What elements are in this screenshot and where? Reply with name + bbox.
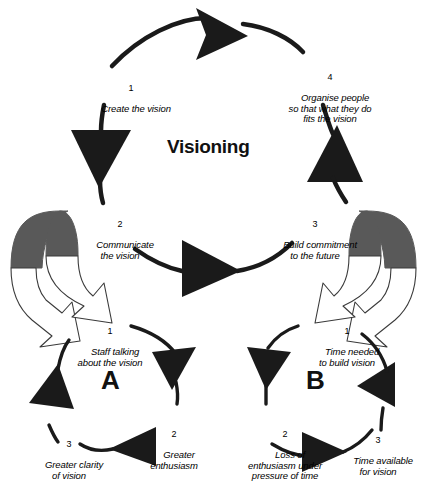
main-step-1-text: Create the vision — [101, 103, 171, 114]
cycle-a-step-1-number: 1 — [52, 326, 168, 337]
cycle-b-step-2-label: 2 Loss of enthusiasm under pressure of t… — [224, 408, 346, 492]
cycle-b-step-1-label: 1 Time needed to build vision — [289, 305, 405, 379]
cycle-a-step-2-label: 2 Greater enthusiasm — [126, 408, 222, 482]
main-step-4-text: Organise people so that what they do fit… — [288, 92, 371, 124]
cycle-b-step-1-number: 1 — [289, 326, 405, 337]
cycle-a-step-3-number: 3 — [11, 439, 127, 450]
cycle-b-step-3-text: Time available for vision — [353, 455, 413, 477]
cycle-a-step-2-text: Greater enthusiasm — [150, 449, 198, 471]
main-step-2-number: 2 — [55, 219, 185, 230]
cycle-a-step-2-number: 2 — [126, 429, 222, 440]
cycle-b-step-1-text: Time needed to build vision — [319, 346, 379, 368]
cycle-a-step-1-label: 1 Staff talking about the vision — [52, 305, 168, 379]
cycle-b-arrowhead-1-to-2 — [247, 347, 291, 390]
main-step-1-number: 1 — [61, 83, 201, 94]
cycle-a-step-3-text: Greater clarity of vision — [45, 459, 103, 481]
cycle-b-step-3-number: 3 — [330, 435, 426, 446]
main-step-1-label: 1 Create the vision — [61, 62, 201, 125]
main-step-2-text: Communicate the vision — [96, 239, 154, 261]
main-step-4-number: 4 — [265, 72, 395, 83]
cycle-a-curve-2-tail — [176, 382, 178, 404]
main-step-2-label: 2 Communicate the vision — [55, 198, 185, 272]
cycle-b-step-3-label: 3 Time available for vision — [330, 414, 426, 488]
main-cycle-arrowhead-bottom — [182, 240, 241, 297]
main-step-3-label: 3 Build commitment to the future — [245, 198, 385, 272]
main-cycle-curve-1-to-4-left — [112, 18, 207, 66]
cycle-a-step-1-text: Staff talking about the vision — [78, 346, 143, 368]
main-step-4-label: 4 Organise people so that what they do f… — [265, 51, 395, 135]
cycle-b-step-2-number: 2 — [224, 429, 346, 440]
cycle-a-step-3-label: 3 Greater clarity of vision — [11, 418, 127, 492]
visioning-diagram: Visioning 1 Create the vision 2 Communic… — [0, 0, 427, 493]
main-step-3-text: Build commitment to the future — [283, 239, 357, 261]
main-cycle-arrowhead-top — [196, 8, 248, 60]
page-title: Visioning — [167, 136, 249, 158]
main-cycle-curve-top-right — [243, 24, 303, 52]
cycle-b-step-2-text: Loss of enthusiasm under pressure of tim… — [248, 449, 322, 481]
main-step-3-number: 3 — [245, 219, 385, 230]
